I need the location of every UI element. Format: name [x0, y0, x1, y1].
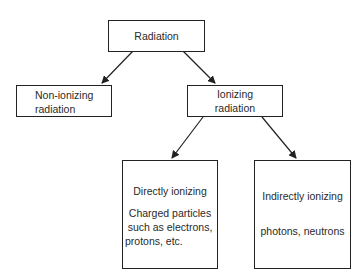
- node-label: Ionizing: [217, 87, 253, 101]
- node-desc: photons, neutrons: [255, 224, 350, 238]
- node-non-ionizing: Non-ionizing radiation: [16, 85, 112, 117]
- node-label: radiation: [215, 101, 255, 115]
- node-title: Indirectly ionizing: [255, 189, 350, 203]
- node-directly-ionizing: Directly ionizing Charged particles such…: [122, 160, 218, 269]
- node-label: radiation: [35, 102, 111, 116]
- node-label: Radiation: [134, 29, 178, 43]
- node-ionizing: Ionizing radiation: [187, 85, 283, 117]
- node-title: Directly ionizing: [123, 184, 217, 198]
- node-indirectly-ionizing: Indirectly ionizing photons, neutrons: [254, 160, 351, 269]
- node-desc: such as electrons,: [123, 220, 217, 234]
- node-desc: Charged particles: [123, 206, 217, 220]
- node-desc: protons, etc.: [123, 234, 217, 248]
- node-radiation: Radiation: [108, 20, 205, 52]
- node-label: Non-ionizing: [35, 88, 111, 102]
